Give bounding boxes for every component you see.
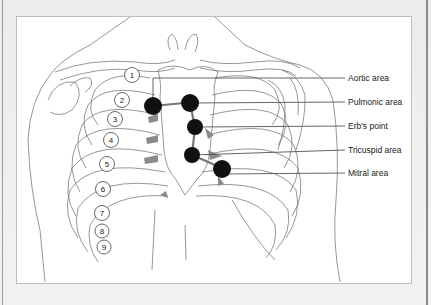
svg-text:9: 9: [102, 243, 107, 252]
mitral-point: [213, 160, 231, 178]
label-tricuspid-area: Tricuspid area: [348, 145, 402, 155]
rib-marker-1: 1: [125, 68, 140, 83]
tricuspid-point: [184, 147, 200, 163]
rib-marker-7: 7: [95, 206, 110, 221]
aortic-point: [144, 97, 162, 115]
rib-marker-5: 5: [100, 157, 115, 172]
rib-marker-9: 9: [97, 240, 111, 254]
svg-text:3: 3: [113, 115, 118, 124]
label-mitral-area: Mitral area: [348, 168, 388, 178]
rib-marker-4: 4: [104, 133, 119, 148]
body-outline: [28, 17, 340, 282]
label-erbs-point: Erb's point: [348, 121, 388, 131]
rib-marker-8: 8: [95, 224, 109, 238]
rib-marker-2: 2: [115, 93, 130, 108]
rib-number-markers: 1 2 3 4 5 6 7 8 9: [95, 68, 140, 255]
svg-text:5: 5: [105, 160, 110, 169]
label-pulmonic-area: Pulmonic area: [348, 97, 402, 107]
svg-text:8: 8: [100, 227, 105, 236]
svg-text:1: 1: [130, 71, 135, 80]
rib-marker-6: 6: [96, 182, 111, 197]
svg-text:7: 7: [100, 209, 105, 218]
label-aortic-area: Aortic area: [348, 73, 389, 83]
svg-text:6: 6: [101, 185, 106, 194]
pulmonic-point: [181, 94, 199, 112]
svg-text:4: 4: [109, 136, 114, 145]
svg-text:2: 2: [120, 96, 125, 105]
erbs-point: [187, 119, 203, 135]
leader-lines: [153, 78, 345, 174]
rib-marker-3: 3: [108, 112, 123, 127]
